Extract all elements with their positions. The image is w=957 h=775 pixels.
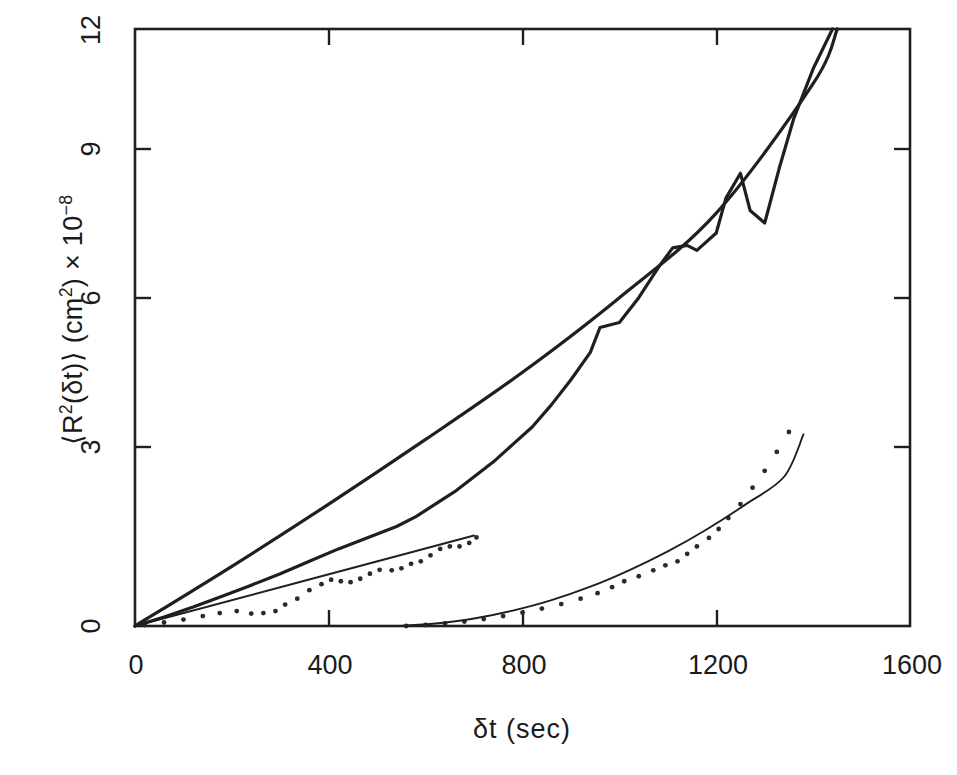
data-series-layer — [135, 29, 837, 628]
data-point — [295, 596, 300, 601]
data-point — [428, 553, 433, 558]
data-point — [559, 602, 564, 607]
data-point — [358, 576, 363, 581]
data-point — [181, 617, 186, 622]
data-point — [261, 611, 266, 616]
data-point — [338, 579, 343, 584]
data-point — [409, 561, 414, 566]
data-point — [636, 574, 641, 579]
data-point — [651, 568, 656, 573]
data-point — [457, 544, 462, 549]
series-middle-dotted-data — [142, 535, 479, 627]
data-point — [787, 430, 792, 435]
data-point — [217, 611, 222, 616]
curve-path — [397, 434, 804, 626]
data-point — [774, 449, 779, 454]
data-point — [447, 544, 452, 549]
series-middle-linear-fit — [135, 535, 474, 626]
data-point — [307, 588, 312, 593]
data-point — [249, 611, 254, 616]
data-point — [377, 567, 382, 572]
data-point — [622, 579, 627, 584]
data-point — [663, 563, 668, 568]
x-tick-marks — [329, 29, 717, 626]
data-point — [595, 591, 600, 596]
data-point — [707, 536, 712, 541]
data-point — [234, 609, 239, 614]
data-point — [685, 551, 690, 556]
data-point — [162, 620, 167, 625]
data-point — [329, 577, 334, 582]
curve-path — [135, 29, 837, 626]
data-point — [467, 541, 472, 546]
data-point — [716, 527, 721, 532]
data-point — [418, 559, 423, 564]
plot-canvas — [0, 0, 957, 775]
data-point — [520, 610, 525, 615]
data-point — [389, 568, 394, 573]
data-point — [438, 546, 443, 551]
series-upper-experimental-jagged — [135, 29, 833, 626]
series-upper-linear-fit — [135, 29, 837, 626]
data-point — [578, 596, 583, 601]
data-point — [610, 585, 615, 590]
data-point — [501, 614, 506, 619]
data-point — [283, 602, 288, 607]
data-point — [348, 580, 353, 585]
curve-path — [135, 535, 474, 626]
series-lower-quadratic-fit — [397, 434, 804, 626]
data-point — [675, 559, 680, 564]
y-tick-marks — [135, 149, 910, 447]
series-lower-dotted-ballistic-data — [404, 430, 791, 629]
data-point — [399, 566, 404, 571]
msd-figure: ⟨R2(δt)⟩ (cm2) × 10−8 0 3 6 9 12 0 400 8… — [0, 0, 957, 775]
data-point — [368, 571, 373, 576]
data-point — [694, 544, 699, 549]
data-point — [750, 485, 755, 490]
data-point — [200, 614, 205, 619]
data-point — [319, 582, 324, 587]
data-point — [539, 606, 544, 611]
curve-path — [135, 29, 833, 626]
data-point — [762, 468, 767, 473]
data-point — [273, 609, 278, 614]
